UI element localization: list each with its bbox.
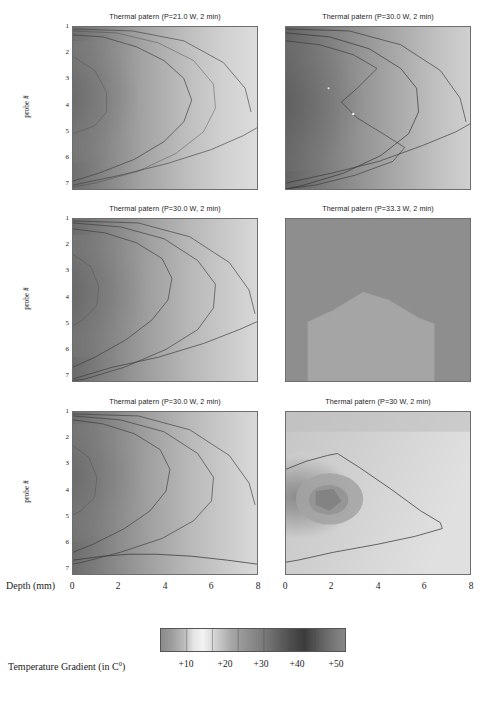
y-tick-4: 4	[66, 294, 70, 301]
panel-p1: Thermal patern (P=21.0 W, 2 min)	[72, 26, 258, 190]
colorbar-tick-50: +50	[329, 658, 344, 670]
panel-title-p2: Thermal patern (P=30.0 W, 2 min)	[255, 12, 487, 21]
x-tick-2: 2	[329, 580, 334, 592]
y-tick-6: 6	[66, 154, 70, 161]
y-tick-3: 3	[66, 75, 70, 82]
colorbar-tick-10: +10	[179, 658, 194, 670]
colorbar	[160, 628, 346, 652]
x-tick-0: 0	[70, 580, 75, 592]
y-axis-p5: 1 2 3 4 5 6 7	[54, 411, 70, 575]
y-tick-4: 4	[66, 102, 70, 109]
panel-p6: Thermal patern (P=30 W, 2 min)	[285, 411, 471, 575]
colorbar-label: Temperature Gradient (in C0)	[8, 658, 125, 673]
heatmap-p6	[285, 411, 471, 575]
y-tick-5: 5	[66, 513, 70, 520]
y-axis-title-p5: probe #	[22, 462, 31, 522]
colorbar-tick-30: +30	[254, 658, 269, 670]
y-tick-1: 1	[66, 23, 70, 30]
panel-p4: Thermal patern (P=33.3 W, 2 min)	[285, 218, 471, 382]
x-tick-0: 0	[283, 580, 288, 592]
panel-title-p4: Thermal patern (P=33.3 W, 2 min)	[255, 204, 487, 213]
y-tick-3: 3	[66, 460, 70, 467]
y-axis-title-p1: probe #	[22, 77, 31, 137]
panel-title-p1: Thermal patern (P=21.0 W, 2 min)	[42, 12, 288, 21]
heatmap-p4	[285, 218, 471, 382]
x-axis-title: Depth (mm)	[6, 580, 55, 592]
colorbar-ticks: +10 +20 +30 +40 +50	[160, 658, 346, 672]
y-tick-6: 6	[66, 539, 70, 546]
x-tick-2: 2	[116, 580, 121, 592]
x-tick-4: 4	[376, 580, 381, 592]
heatmap-p1	[72, 26, 258, 190]
y-tick-5: 5	[66, 128, 70, 135]
x-tick-6: 6	[209, 580, 214, 592]
y-tick-7: 7	[66, 180, 70, 187]
panel-title-p3: Thermal patern (P=30.0 W, 2 min)	[42, 204, 288, 213]
x-axis-left: 0 2 4 6 8	[72, 580, 258, 594]
y-tick-7: 7	[66, 565, 70, 572]
x-tick-8: 8	[469, 580, 474, 592]
x-tick-8: 8	[256, 580, 261, 592]
y-axis-p1: 1 2 3 4 5 6 7	[54, 26, 70, 190]
heatmap-p2	[285, 26, 471, 190]
heatmap-p3	[72, 218, 258, 382]
y-tick-2: 2	[66, 49, 70, 56]
y-axis-p3: 1 2 3 4 5 6 7	[54, 218, 70, 382]
x-tick-6: 6	[422, 580, 427, 592]
heatmap-p5	[72, 411, 258, 575]
y-tick-2: 2	[66, 241, 70, 248]
panel-p3: Thermal patern (P=30.0 W, 2 min)	[72, 218, 258, 382]
y-axis-title-p3: probe #	[22, 269, 31, 329]
y-tick-4: 4	[66, 487, 70, 494]
y-tick-3: 3	[66, 267, 70, 274]
colorbar-label-close: )	[122, 661, 125, 672]
y-tick-6: 6	[66, 346, 70, 353]
panel-title-p5: Thermal patern (P=30.0 W, 2 min)	[42, 397, 288, 406]
y-tick-1: 1	[66, 408, 70, 415]
colorbar-label-main: Temperature Gradient (in C	[8, 661, 119, 672]
colorbar-tick-40: +40	[290, 658, 305, 670]
colorbar-tick-20: +20	[218, 658, 233, 670]
y-tick-5: 5	[66, 320, 70, 327]
x-axis-right: 0 2 4 6 8	[285, 580, 471, 594]
y-tick-1: 1	[66, 215, 70, 222]
x-tick-4: 4	[163, 580, 168, 592]
y-tick-2: 2	[66, 434, 70, 441]
panel-title-p6: Thermal patern (P=30 W, 2 min)	[255, 397, 487, 406]
thermal-pattern-figure: Thermal patern (P=21.0 W, 2 min)	[0, 0, 487, 701]
panel-p5: Thermal patern (P=30.0 W, 2 min)	[72, 411, 258, 575]
panel-p2: Thermal patern (P=30.0 W, 2 min)	[285, 26, 471, 190]
y-tick-7: 7	[66, 372, 70, 379]
